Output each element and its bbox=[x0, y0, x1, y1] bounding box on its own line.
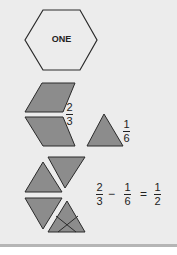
equation-term-a: 2 3 bbox=[96, 182, 103, 207]
denominator: 6 bbox=[124, 196, 130, 207]
numerator: 2 bbox=[96, 182, 102, 193]
equation-result: 1 2 bbox=[154, 182, 161, 207]
fraction-two-thirds: 2 3 bbox=[66, 102, 73, 127]
numerator: 2 bbox=[66, 102, 72, 113]
numerator: 1 bbox=[123, 119, 129, 130]
triangle-sixth bbox=[87, 114, 123, 146]
hexagon-label: ONE bbox=[43, 34, 80, 44]
minus-sign: − bbox=[108, 187, 115, 201]
numerator: 1 bbox=[154, 182, 160, 193]
fraction-one-sixth: 1 6 bbox=[123, 119, 130, 144]
denominator: 2 bbox=[154, 196, 160, 207]
pattern-blocks bbox=[0, 0, 177, 255]
denominator: 3 bbox=[96, 196, 102, 207]
denominator: 6 bbox=[123, 133, 129, 144]
numerator: 1 bbox=[124, 182, 130, 193]
denominator: 3 bbox=[66, 116, 72, 127]
equals-sign: = bbox=[140, 187, 147, 201]
equation-term-b: 1 6 bbox=[124, 182, 131, 207]
